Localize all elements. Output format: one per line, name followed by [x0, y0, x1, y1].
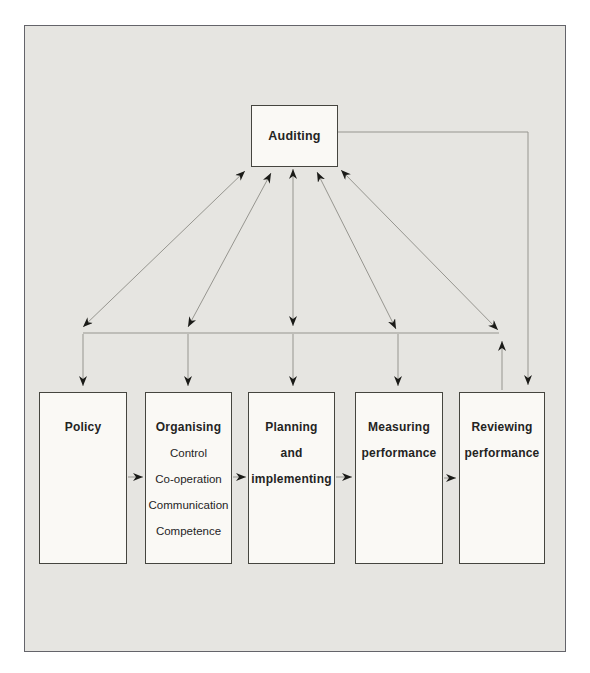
arrow-auditing-reviewing [341, 170, 498, 330]
planning-box: Planning and implementing [248, 392, 335, 564]
planning-box-title-line2: and [249, 440, 334, 466]
organising-item-control: Control [146, 440, 231, 466]
organising-item-communication: Communication [146, 492, 231, 518]
arrow-auditing-policy [83, 171, 245, 327]
connector-lines [0, 0, 590, 673]
organising-item-cooperation: Co-operation [146, 466, 231, 492]
measuring-box: Measuring performance [355, 392, 443, 564]
auditing-box-label: Auditing [268, 129, 320, 143]
arrow-auditing-reviewing-direct [338, 132, 528, 385]
organising-item-competence: Competence [146, 518, 231, 544]
reviewing-box: Reviewing performance [459, 392, 545, 564]
measuring-box-title-line2: performance [356, 440, 442, 466]
arrow-auditing-measuring [317, 172, 396, 329]
auditing-box: Auditing [251, 105, 338, 167]
reviewing-box-title-line1: Reviewing [460, 414, 544, 440]
organising-box-title: Organising [146, 414, 231, 440]
organising-box: Organising Control Co-operation Communic… [145, 392, 232, 564]
arrow-auditing-organising [188, 173, 271, 327]
diagram-canvas: Auditing Policy Organising Control Co-op… [0, 0, 590, 673]
planning-box-title-line1: Planning [249, 414, 334, 440]
planning-box-title-line3: implementing [249, 466, 334, 492]
measuring-box-title-line1: Measuring [356, 414, 442, 440]
reviewing-box-title-line2: performance [460, 440, 544, 466]
policy-box-title: Policy [40, 414, 126, 440]
policy-box: Policy [39, 392, 127, 564]
